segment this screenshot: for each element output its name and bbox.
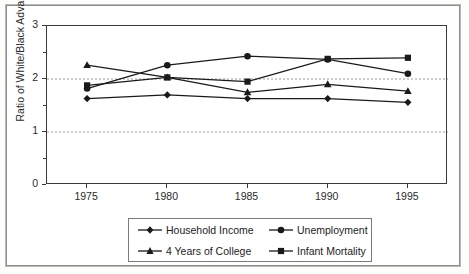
chart-legend: Household Income Unemployment xyxy=(128,218,372,262)
data-point-marker xyxy=(83,61,91,68)
data-point-marker xyxy=(325,56,331,62)
x-tick-label: 1985 xyxy=(225,190,269,202)
data-point-marker xyxy=(164,62,171,69)
gridlines xyxy=(47,79,448,132)
legend-row-1: Household Income Unemployment xyxy=(129,220,373,240)
legend-label: Household Income xyxy=(166,224,254,236)
chart-figure: Ratio of White/Black Advantage 0123 1975… xyxy=(0,0,469,274)
legend-row-2: 4 Years of College Infant Mortality xyxy=(129,241,373,261)
y-tick-mark xyxy=(42,184,46,185)
data-point-marker xyxy=(244,53,251,60)
data-point-marker xyxy=(405,70,412,77)
legend-item-4-years-of-college[interactable]: 4 Years of College xyxy=(137,241,251,261)
x-tick-label: 1990 xyxy=(305,190,349,202)
data-point-marker xyxy=(405,55,411,61)
y-tick-label: 3 xyxy=(20,18,38,30)
data-point-marker xyxy=(84,95,91,102)
legend-item-unemployment[interactable]: Unemployment xyxy=(268,220,368,240)
legend-label: Infant Mortality xyxy=(297,245,366,257)
chart-canvas xyxy=(47,26,448,185)
series-4-years-of-college xyxy=(83,61,411,95)
data-point-marker xyxy=(324,95,331,102)
y-tick-label: 2 xyxy=(20,71,38,83)
data-point-marker xyxy=(84,82,90,88)
y-tick-label: 0 xyxy=(20,177,38,189)
legend-item-household-income[interactable]: Household Income xyxy=(137,220,254,240)
data-point-marker xyxy=(164,74,170,80)
legend-item-infant-mortality[interactable]: Infant Mortality xyxy=(268,241,366,261)
square-marker-icon xyxy=(268,244,294,258)
data-point-marker xyxy=(244,95,251,102)
x-tick-label: 1995 xyxy=(385,190,429,202)
triangle-marker-icon xyxy=(137,244,163,258)
data-point-marker xyxy=(404,99,411,106)
circle-marker-icon xyxy=(268,223,294,237)
x-tick-label: 1980 xyxy=(144,190,188,202)
legend-label: Unemployment xyxy=(297,224,368,236)
diamond-marker-icon xyxy=(137,223,163,237)
x-tick-label: 1975 xyxy=(64,190,108,202)
plot-area xyxy=(46,25,447,184)
data-point-marker xyxy=(164,91,171,98)
data-point-marker xyxy=(324,80,332,87)
legend-label: 4 Years of College xyxy=(166,245,251,257)
y-tick-label: 1 xyxy=(20,124,38,136)
data-point-marker xyxy=(244,79,250,85)
